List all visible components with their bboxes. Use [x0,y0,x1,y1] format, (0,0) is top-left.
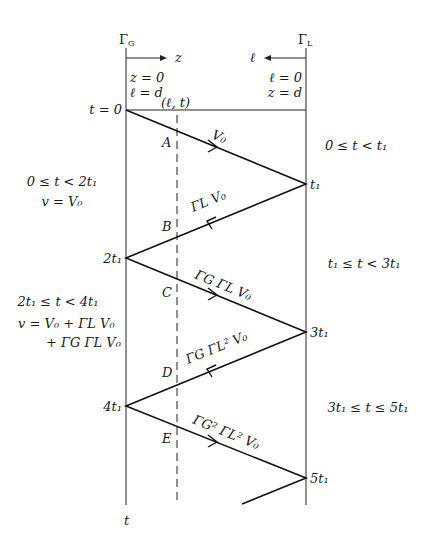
right-interval-1: 0 ≤ t < t₁ [325,138,387,153]
gen-coord-1: z = 0 [129,70,164,85]
time-mark-3t1: 3t₁ [310,325,329,340]
left-voltage-2b: + ΓG ΓL V₀ [46,335,122,350]
l-arrowhead-icon [264,55,271,61]
l-label: ℓ [250,50,256,65]
point-A: A [161,135,171,150]
left-voltage-2a: v = V₀ + ΓL V₀ [18,316,115,331]
point-E: E [161,431,172,446]
point-C: C [162,285,172,300]
load-coord-1: ℓ = 0 [269,70,302,85]
gamma-g-label: ΓG [119,32,134,48]
time-mark-5t1: 5t₁ [310,471,329,486]
z-arrowhead-icon [160,55,167,61]
wave-label-2: ΓL V₀ [188,187,229,215]
load-coord-2: z = d [267,85,302,100]
wave-label-4: ΓG ΓL² V₀ [183,328,251,367]
wave-path [126,110,306,504]
time-mark-4t1: 4t₁ [102,399,122,414]
right-interval-3: 3t₁ ≤ t ≤ 5t₁ [328,400,409,415]
right-interval-2: t₁ ≤ t < 3t₁ [328,256,401,271]
point-B: B [161,219,172,234]
gen-coord-2: ℓ = d [130,85,163,100]
time-axis-label: t [124,513,130,528]
left-interval-1: 0 ≤ t < 2t₁ [27,174,98,189]
left-voltage-1: v = V₀ [41,194,83,209]
left-interval-2: 2t₁ ≤ t < 4t₁ [17,294,99,309]
point-D: D [161,365,173,380]
time-mark-2t1: 2t₁ [102,251,122,266]
z-label: z [174,50,182,65]
time-mark-t0: t = 0 [89,102,122,117]
observation-point-label: (ℓ, t) [161,95,190,110]
gamma-l-label: ΓL [298,32,313,48]
bounce-diagram: ΓG ΓL z ℓ z = 0 ℓ = d ℓ = 0 z = d (ℓ, t)… [0,0,424,545]
time-mark-t1: t₁ [310,177,320,192]
